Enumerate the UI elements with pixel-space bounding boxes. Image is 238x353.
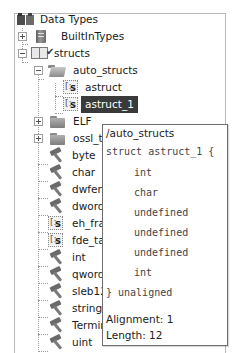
tooltip-alignment: Alignment: 1 <box>106 313 173 325</box>
tree-line <box>38 334 48 335</box>
tooltip-field: int <box>134 267 152 278</box>
tooltip-length: Length: 12 <box>106 329 162 341</box>
struct-tooltip: /auto_structs struct astruct_1 { int cha… <box>102 124 228 346</box>
builtin-type-icon <box>48 267 64 282</box>
folder-icon <box>50 132 66 145</box>
tree-line <box>38 215 48 216</box>
folder-open-icon <box>48 64 64 77</box>
book-icon <box>34 29 48 44</box>
builtin-type-icon <box>48 335 64 350</box>
tree-node-label: qword <box>70 266 106 283</box>
tree-node-auto-structs[interactable]: auto_structs <box>33 62 223 79</box>
builtin-type-icon <box>48 199 64 214</box>
tooltip-field: undefined <box>134 247 188 258</box>
builtin-type-icon <box>48 284 64 299</box>
struct-icon: [:s <box>63 80 78 94</box>
tooltip-field: undefined <box>134 207 188 218</box>
builtin-type-icon <box>48 318 64 333</box>
expand-toggle[interactable] <box>18 32 27 41</box>
tree-node-label: BuiltInTypes <box>59 28 126 45</box>
tree-node-label: int <box>70 249 88 266</box>
tree-node-label: astruct_1 <box>81 96 138 113</box>
tree-line <box>38 266 48 267</box>
tooltip-struct-header: struct astruct_1 { <box>106 146 214 157</box>
tree-line <box>38 79 44 80</box>
builtin-type-icon <box>48 301 64 316</box>
builtin-type-icon <box>48 250 64 265</box>
tree-line <box>38 66 39 353</box>
struct-icon: [:s <box>63 97 78 111</box>
collapse-toggle[interactable] <box>18 49 27 58</box>
tooltip-path: /auto_structs <box>106 127 174 139</box>
tree-node-label: uint <box>70 334 94 351</box>
tree-node-label: astruct <box>83 79 124 96</box>
tree-line <box>38 164 48 165</box>
tree-node-label: structs <box>52 45 92 62</box>
tooltip-struct-footer: } unaligned <box>106 287 172 298</box>
tree-node-label: auto_structs <box>71 62 140 79</box>
data-types-icon <box>17 12 35 26</box>
tree-node-label: Data Types <box>38 11 100 28</box>
builtin-type-icon <box>48 165 64 180</box>
builtin-type-icon <box>48 148 64 163</box>
struct-icon: [:s <box>48 216 63 230</box>
tooltip-field: int <box>134 167 152 178</box>
tree-node-astruct[interactable]: [:s astruct <box>63 79 213 96</box>
tree-node-data-types[interactable]: Data Types <box>17 11 217 28</box>
collapse-toggle[interactable] <box>34 66 43 75</box>
tree-node-label: char <box>70 164 97 181</box>
tree-line <box>38 232 48 233</box>
folder-icon <box>50 115 66 128</box>
tree-line <box>38 351 48 352</box>
tree-line <box>38 249 48 250</box>
tooltip-field: undefined <box>134 227 188 238</box>
tree-node-label: byte <box>70 147 97 164</box>
tree-node-builtintypes[interactable]: BuiltInTypes <box>17 28 217 45</box>
tree-line <box>38 317 48 318</box>
tree-node-structs[interactable]: ✔ structs <box>17 45 217 62</box>
tree-line <box>55 96 63 97</box>
tooltip-field: char <box>134 187 158 198</box>
tree-node-astruct-1[interactable]: [:s astruct_1 <box>63 96 213 113</box>
tree-node-label: string <box>70 300 104 317</box>
tree-line <box>38 283 48 284</box>
struct-icon: [:s <box>48 233 63 247</box>
expand-toggle[interactable] <box>34 134 43 143</box>
tree-node-label: dword <box>70 198 106 215</box>
tree-node-label: ELF <box>71 113 94 130</box>
expand-toggle[interactable] <box>34 117 43 126</box>
builtin-type-icon <box>48 182 64 197</box>
tree-line <box>38 181 48 182</box>
tree-line <box>38 300 48 301</box>
tree-line <box>38 198 48 199</box>
tree-line <box>22 62 28 63</box>
